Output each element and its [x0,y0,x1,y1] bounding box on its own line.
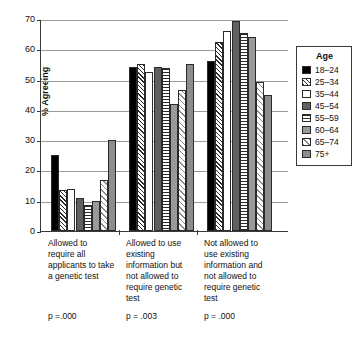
bar [232,21,240,231]
p-value-annotation: p = .003 [126,311,157,322]
category-label-line: existing [126,249,204,260]
category-label: Not allowed touse existinginformation an… [204,238,282,304]
bar [108,140,116,231]
bar [162,68,170,231]
category-label-line: test [204,293,282,304]
bar [154,67,162,231]
bar [223,31,231,231]
y-tick-label: 60 [0,45,35,54]
bar [178,90,186,231]
category-label-line: use existing [204,249,282,260]
category-label-line: test [126,293,204,304]
category-label-line: Not allowed to [204,238,282,249]
legend-label: 18–24 [315,66,339,75]
legend-swatch-icon [302,114,311,122]
p-value-annotation: p = .000 [204,311,235,322]
category-label-line: require genetic [204,282,282,293]
bar [256,82,264,231]
bar [51,155,59,231]
y-tick-mark [37,232,41,233]
y-tick-label: 50 [0,76,35,85]
legend-swatch-icon [302,78,311,86]
y-tick-label: 20 [0,166,35,175]
category-label-line: applicants to take [48,260,126,271]
legend-label: 45–54 [315,102,339,111]
legend-item[interactable]: 75+ [302,148,347,160]
category-label-line: information and [204,260,282,271]
category-label-line: not allowed to [204,271,282,282]
y-tick-label: 70 [0,15,35,24]
bar [76,198,84,231]
category-label-line: Allowed to [48,238,126,249]
legend-swatch-icon [302,66,311,74]
legend-label: 35–44 [315,90,339,99]
bar [207,61,215,231]
bar [215,42,223,231]
legend-item[interactable]: 35–44 [302,88,347,100]
p-value-annotation: p =.000 [48,311,77,322]
bar [92,201,100,231]
bar [186,64,194,231]
category-label-line: not allowed to [126,271,204,282]
y-tick-label: 10 [0,197,35,206]
bars-layer [41,20,288,231]
y-tick-label: 40 [0,106,35,115]
category-label-line: information but [126,260,204,271]
plot-area: % Agreeing 010203040506070 [40,20,288,232]
legend-item[interactable]: 45–54 [302,100,347,112]
legend-label: 65–74 [315,138,339,147]
legend-label: 55–59 [315,114,339,123]
bar [248,37,256,231]
bar [129,67,137,231]
bar [240,33,248,231]
bar [170,104,178,231]
bar [145,72,153,231]
legend-label: 75+ [315,150,329,159]
axis-separator [119,230,120,235]
axis-separator [197,230,198,235]
legend-item[interactable]: 18–24 [302,64,347,76]
legend-swatch-icon [302,126,311,134]
category-label: Allowed torequire allapplicants to takea… [48,238,126,282]
legend-swatch-icon [302,138,311,146]
bar-chart: % Agreeing 010203040506070 Allowed toreq… [0,0,356,342]
legend-item[interactable]: 65–74 [302,136,347,148]
bar [67,189,75,231]
bar [264,95,272,231]
legend-item[interactable]: 55–59 [302,112,347,124]
category-label-line: a genetic test [48,271,126,282]
bar [59,190,67,231]
y-tick-label: 30 [0,136,35,145]
y-tick-label: 0 [0,227,35,236]
legend-swatch-icon [302,150,311,158]
bar [137,64,145,231]
category-label: Allowed to useexistinginformation butnot… [126,238,204,304]
legend-swatch-icon [302,90,311,98]
legend-item[interactable]: 25–34 [302,76,347,88]
bar [84,205,92,231]
category-label-line: require all [48,249,126,260]
category-label-line: Allowed to use [126,238,204,249]
legend-label: 25–34 [315,78,339,87]
bar [100,180,108,231]
legend-item[interactable]: 60–64 [302,124,347,136]
legend-label: 60–64 [315,126,339,135]
legend-swatch-icon [302,102,311,110]
legend: Age 18–2425–3435–4445–5455–5960–6465–747… [296,46,352,166]
legend-title: Age [302,51,347,61]
category-label-line: require genetic [126,282,204,293]
